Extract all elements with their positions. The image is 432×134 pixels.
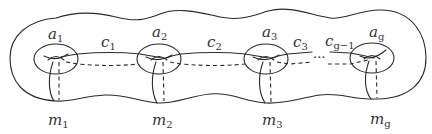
connector-c1 (61, 53, 162, 66)
connector-c3 (272, 52, 312, 64)
handle-g (350, 43, 394, 99)
meridian-front-m2 (152, 62, 157, 103)
meridian-back-mg (376, 61, 377, 98)
handle-2 (137, 44, 181, 103)
genus-g-surface-diagram: ··· a1 a2 a3 ag c1 c2 c3 cg−1 m1 m2 m3 m… (0, 0, 432, 134)
connector-cg-1-back (328, 60, 368, 64)
meridian-front-m1 (49, 62, 54, 101)
label-c3: c3 (293, 33, 308, 52)
label-a2: a2 (152, 23, 167, 42)
label-ag: ag (369, 23, 385, 42)
label-mg: mg (370, 110, 391, 129)
label-m2: m2 (152, 111, 173, 130)
label-a1: a1 (48, 25, 63, 44)
ellipsis: ··· (313, 50, 325, 65)
connector-c2-back (170, 62, 245, 66)
label-c2: c2 (207, 33, 222, 52)
label-c1: c1 (101, 33, 116, 52)
label-m3: m3 (262, 111, 283, 130)
label-a3: a3 (262, 23, 277, 42)
hole-upper (360, 50, 386, 58)
label-cg-1: cg−1 (325, 32, 355, 51)
meridian-back-m3 (270, 62, 271, 102)
meridian-back-m2 (163, 62, 164, 101)
meridian-front-mg (365, 61, 371, 99)
meridian-front-m3 (259, 62, 265, 103)
handle-1 (34, 44, 78, 101)
label-m1: m1 (48, 111, 69, 130)
handle-3 (244, 44, 288, 103)
connector-c3-back (277, 62, 312, 64)
